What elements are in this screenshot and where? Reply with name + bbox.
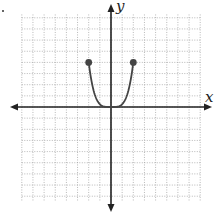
y-axis-label: y (116, 0, 124, 15)
x-axis-label: x (205, 88, 213, 106)
coordinate-plane (0, 0, 222, 215)
x-axis-left-arrow-icon (10, 104, 18, 111)
stray-mark (2, 10, 4, 12)
y-axis-down-arrow-icon (108, 204, 115, 212)
endpoint-dot (130, 59, 137, 66)
endpoint-dot (85, 59, 92, 66)
y-axis-up-arrow-icon (108, 4, 115, 12)
